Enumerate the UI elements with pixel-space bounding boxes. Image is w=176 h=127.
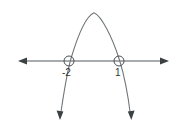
root-label-left: -2	[62, 67, 71, 78]
parabola-right-arrow-icon	[128, 110, 135, 120]
x-axis-left-arrow-icon	[18, 58, 27, 65]
parabola-curve	[61, 13, 131, 115]
graph-figure: -2 1	[0, 0, 176, 127]
parabola-left-arrow-icon	[57, 111, 64, 121]
x-axis-right-arrow-icon	[160, 58, 169, 65]
graph-canvas: -2 1	[0, 0, 176, 127]
root-label-right: 1	[115, 67, 121, 78]
